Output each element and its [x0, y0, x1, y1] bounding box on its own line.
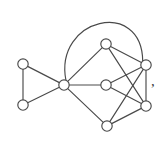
trailing-comma-punctuation: ,	[151, 74, 155, 89]
graph-edge-v4-v6	[111, 46, 142, 62]
graph-figure: ,	[0, 0, 168, 147]
graph-vertex-v2	[18, 100, 28, 110]
graph-edge-v1-v3	[28, 66, 60, 82]
graph-vertex-v5	[101, 80, 111, 90]
graph-vertex-v3	[59, 80, 69, 90]
graph-edge-v7-v8	[112, 108, 142, 123]
graph-vertex-v4	[101, 39, 111, 49]
graph-vertex-v8	[102, 121, 112, 131]
graph-vertex-v1	[18, 59, 28, 69]
graph-edge-v2-v3	[28, 87, 60, 102]
graph-edge-v6-v8	[110, 69, 143, 121]
graph-edge-v3-v8	[68, 89, 103, 123]
graph-vertex-v7	[141, 101, 151, 111]
edge-layer	[23, 23, 146, 124]
graph-canvas	[0, 0, 168, 147]
graph-edge-arc-v3-v6	[65, 23, 143, 81]
graph-edge-v3-v4	[68, 48, 103, 82]
graph-vertex-v6	[141, 60, 151, 70]
